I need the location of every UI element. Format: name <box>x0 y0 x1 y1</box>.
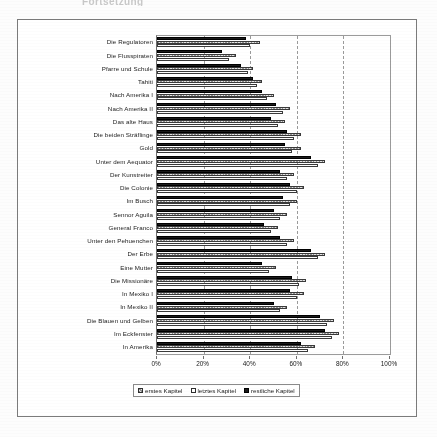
bar-erstes-kapitel <box>157 120 285 123</box>
x-tick-60% <box>296 356 297 359</box>
category-row: Eine Mutter <box>157 261 390 274</box>
bar-erstes-kapitel <box>157 253 325 256</box>
bar-restliche-kapitel <box>157 103 276 106</box>
bar-erstes-kapitel <box>157 54 236 57</box>
bar-erstes-kapitel <box>157 345 315 348</box>
page-header-fragment: Fortsetzung <box>82 0 144 6</box>
bar-erstes-kapitel <box>157 67 253 70</box>
x-axis: 0%20%40%60%80%100% <box>156 356 389 370</box>
bar-erstes-kapitel <box>157 226 278 229</box>
legend-item-0[interactable]: erstes Kapitel <box>138 387 183 394</box>
bar-restliche-kapitel <box>157 90 262 93</box>
category-row: Im Eckfenster <box>157 328 390 341</box>
category-label: Eine Mutter <box>120 265 153 271</box>
bar-letztes-kapitel <box>157 323 327 326</box>
category-label: Die Flusspiraten <box>107 53 153 59</box>
bar-letztes-kapitel <box>157 164 318 167</box>
category-row: Die beiden Sträflinge <box>157 129 390 142</box>
category-label: General Franco <box>109 225 153 231</box>
category-label: In Mexiko I <box>122 291 153 297</box>
bar-restliche-kapitel <box>157 262 262 265</box>
bar-letztes-kapitel <box>157 243 287 246</box>
bar-erstes-kapitel <box>157 292 304 295</box>
category-label: Unter den Pehuenchen <box>87 238 153 244</box>
bar-restliche-kapitel <box>157 209 274 212</box>
bar-restliche-kapitel <box>157 143 285 146</box>
bar-restliche-kapitel <box>157 276 292 279</box>
category-label: Die Missionäre <box>111 278 153 284</box>
bar-letztes-kapitel <box>157 44 250 47</box>
category-row: Nach Amerika II <box>157 102 390 115</box>
bar-letztes-kapitel <box>157 137 294 140</box>
bar-restliche-kapitel <box>157 329 325 332</box>
category-row: Das alte Haus <box>157 116 390 129</box>
bar-erstes-kapitel <box>157 41 260 44</box>
gridline-100% <box>390 36 391 354</box>
category-label: Pfarre und Schule <box>102 66 153 72</box>
category-row: Die Missionäre <box>157 275 390 288</box>
bar-restliche-kapitel <box>157 183 290 186</box>
category-label: Die Blauen und Gelben <box>87 318 153 324</box>
category-row: Pfarre und Schule <box>157 63 390 76</box>
bar-erstes-kapitel <box>157 107 290 110</box>
bar-erstes-kapitel <box>157 306 287 309</box>
x-tick-100% <box>389 356 390 359</box>
x-tick-label: 60% <box>289 360 302 367</box>
legend-label-1: letztes Kapitel <box>198 387 237 394</box>
bar-erstes-kapitel <box>157 200 297 203</box>
chart-frame: Die RegulatorenDie FlusspiratenPfarre un… <box>17 19 417 417</box>
category-label: Der Kunstreiter <box>110 172 153 178</box>
x-tick-label: 100% <box>381 360 397 367</box>
category-label: Die Colonie <box>120 185 153 191</box>
bar-restliche-kapitel <box>157 223 264 226</box>
bar-restliche-kapitel <box>157 117 271 120</box>
category-label: Nach Amerika II <box>108 106 153 112</box>
category-row: Der Kunstreiter <box>157 169 390 182</box>
x-tick-label: 20% <box>196 360 209 367</box>
category-row: Die Colonie <box>157 182 390 195</box>
legend-swatch-restliche-kapitel <box>244 388 249 393</box>
category-row: Die Regulatoren <box>157 36 390 49</box>
category-label: Die Regulatoren <box>107 39 153 45</box>
category-label: Die beiden Sträflinge <box>93 132 153 138</box>
category-row: Die Blauen und Gelben <box>157 314 390 327</box>
category-label: Der Erbe <box>127 251 153 257</box>
bar-erstes-kapitel <box>157 94 274 97</box>
bar-restliche-kapitel <box>157 156 311 159</box>
bar-letztes-kapitel <box>157 124 278 127</box>
bar-letztes-kapitel <box>157 97 267 100</box>
category-label: Das alte Haus <box>113 119 153 125</box>
legend-item-1[interactable]: letztes Kapitel <box>191 387 237 394</box>
x-tick-20% <box>203 356 204 359</box>
bar-restliche-kapitel <box>157 289 290 292</box>
category-row: Unter dem Aequator <box>157 155 390 168</box>
bar-restliche-kapitel <box>157 236 280 239</box>
legend-item-2[interactable]: restliche Kapitel <box>244 387 295 394</box>
bar-restliche-kapitel <box>157 37 246 40</box>
bar-restliche-kapitel <box>157 50 222 53</box>
x-tick-40% <box>249 356 250 359</box>
bar-restliche-kapitel <box>157 249 311 252</box>
category-row: Im Busch <box>157 195 390 208</box>
x-tick-label: 40% <box>243 360 256 367</box>
bar-letztes-kapitel <box>157 190 297 193</box>
bar-erstes-kapitel <box>157 332 339 335</box>
category-row: In Mexiko II <box>157 301 390 314</box>
x-tick-label: 80% <box>336 360 349 367</box>
legend-swatch-letztes-kapitel <box>191 388 196 393</box>
bar-letztes-kapitel <box>157 111 283 114</box>
bar-restliche-kapitel <box>157 196 283 199</box>
bar-erstes-kapitel <box>157 160 325 163</box>
bar-erstes-kapitel <box>157 213 287 216</box>
x-tick-label: 0% <box>151 360 160 367</box>
category-label: Im Busch <box>126 198 153 204</box>
category-row: Gold <box>157 142 390 155</box>
legend-label-2: restliche Kapitel <box>251 387 295 394</box>
category-label: Im Eckfenster <box>114 331 153 337</box>
bar-letztes-kapitel <box>157 203 290 206</box>
bar-letztes-kapitel <box>157 256 318 259</box>
category-label: Unter dem Aequator <box>96 159 153 165</box>
x-tick-80% <box>342 356 343 359</box>
bar-letztes-kapitel <box>157 150 292 153</box>
category-label: In Amerika <box>123 344 153 350</box>
